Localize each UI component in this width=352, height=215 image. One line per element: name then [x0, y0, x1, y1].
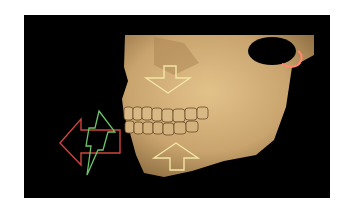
figure-panel: [24, 15, 330, 198]
lightning-bolt-icon: [86, 111, 115, 175]
skull-illustration: [24, 15, 330, 198]
skull-shape: [122, 35, 314, 177]
